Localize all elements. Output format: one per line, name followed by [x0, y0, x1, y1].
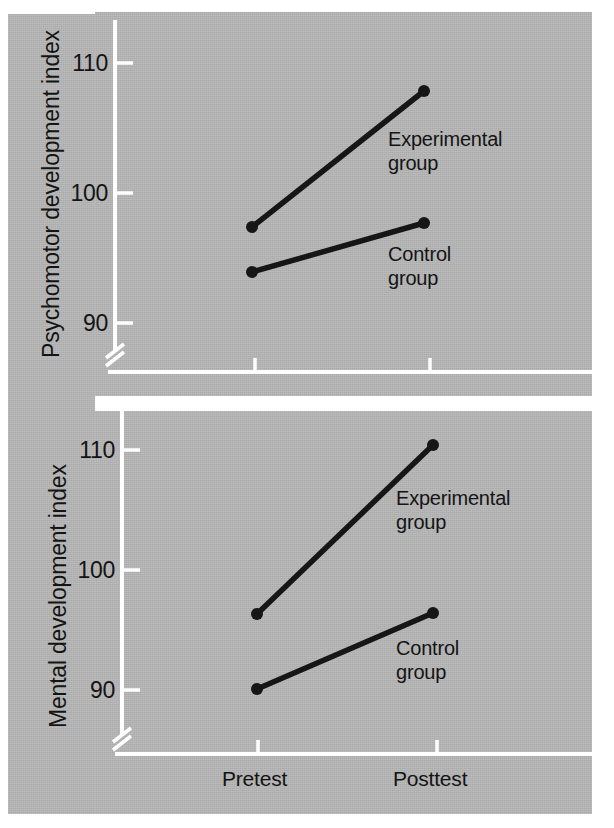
x-axis-label-pretest: Pretest	[222, 768, 287, 789]
bottom-point-control-pretest	[251, 683, 263, 695]
bottom-label-control-group: Control group	[396, 637, 459, 684]
bottom-y-axis-title: Mental development index	[47, 464, 70, 728]
figure-page: 110 100 90 Psychomotor development index…	[0, 0, 614, 828]
x-axis-label-posttest: Posttest	[393, 768, 467, 789]
bottom-chart-graphics	[0, 0, 614, 828]
bottom-point-experimental-pretest	[251, 608, 263, 620]
bottom-label-experimental-group: Experimental group	[396, 487, 510, 534]
bottom-ytick-label-110: 110	[57, 439, 115, 462]
bottom-point-experimental-posttest	[427, 439, 439, 451]
bottom-point-control-posttest	[427, 607, 439, 619]
